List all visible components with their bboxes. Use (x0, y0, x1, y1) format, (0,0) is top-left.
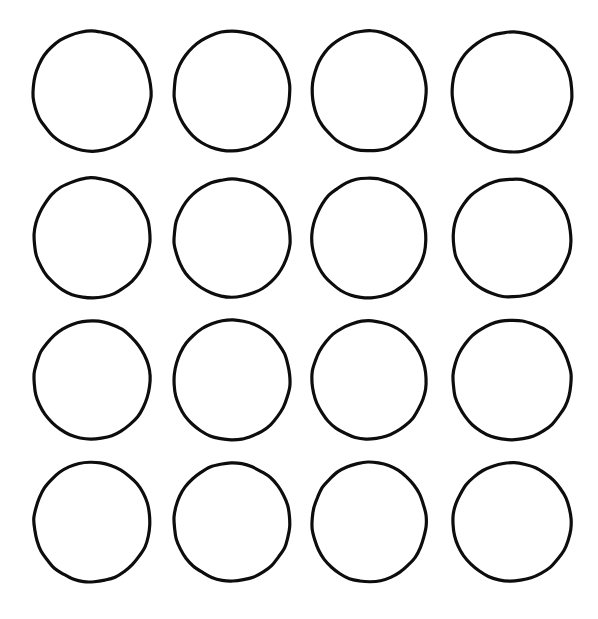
circle-r2-c1[interactable] (30, 174, 154, 302)
circle-r3-c2[interactable] (168, 314, 296, 445)
circle-grid-svg (0, 0, 598, 619)
circle-r3-c3[interactable] (310, 319, 428, 441)
circle-r4-c2[interactable] (168, 457, 295, 586)
circles-layer (27, 25, 579, 587)
circle-r1-c4[interactable] (445, 25, 579, 159)
circle-grid-canvas (0, 0, 598, 619)
circle-r3-c1[interactable] (30, 317, 154, 443)
circle-r4-c1[interactable] (31, 459, 153, 585)
circle-r2-c3[interactable] (309, 175, 429, 301)
circle-r2-c2[interactable] (169, 174, 295, 302)
circle-r4-c4[interactable] (450, 460, 574, 584)
circle-r1-c3[interactable] (309, 28, 429, 154)
circle-r1-c2[interactable] (169, 26, 294, 156)
circle-r2-c4[interactable] (447, 172, 578, 303)
circle-r3-c4[interactable] (448, 315, 576, 445)
circle-r1-c1[interactable] (27, 25, 157, 157)
circle-r4-c3[interactable] (308, 458, 430, 585)
